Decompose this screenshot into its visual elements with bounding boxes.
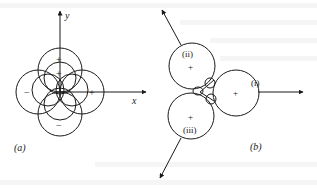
- panel-b-label: (b): [250, 141, 262, 153]
- sign-top: +: [56, 54, 62, 65]
- label-iii: (iii): [183, 125, 197, 135]
- panel-a: [16, 11, 146, 136]
- axis-iii: [160, 138, 181, 178]
- sign-i: +: [233, 88, 238, 98]
- label-ii: (ii): [182, 49, 193, 59]
- sign-left: −: [24, 87, 30, 98]
- lobe-left: [16, 70, 60, 114]
- label-i: (i): [251, 78, 260, 88]
- sign-inner-top: +: [56, 68, 62, 79]
- orbital-diagram: y x + + + − − (a) (i) + (ii) + + (iii) (…: [0, 0, 317, 189]
- sign-ii: +: [188, 62, 193, 72]
- panel-a-label: (a): [14, 142, 26, 154]
- y-axis-label: y: [64, 10, 70, 21]
- axis-ii: [162, 10, 181, 45]
- sign-iii: +: [188, 112, 193, 122]
- sign-right: +: [89, 87, 95, 98]
- center-line-1: [200, 80, 214, 92]
- panel-b: [160, 10, 303, 178]
- x-axis-label: x: [131, 95, 137, 106]
- sign-bottom: −: [56, 120, 62, 131]
